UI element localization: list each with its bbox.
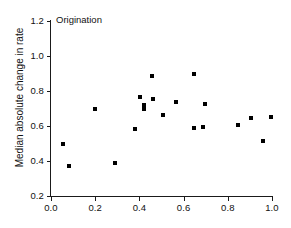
- data-point: [201, 125, 205, 129]
- data-point: [67, 164, 71, 168]
- x-tick-mark: [272, 197, 273, 201]
- data-point: [150, 74, 154, 78]
- data-point: [236, 123, 240, 127]
- data-point: [249, 116, 253, 120]
- x-tick-label: 0.2: [80, 202, 110, 213]
- data-point: [161, 113, 165, 117]
- data-point: [133, 127, 137, 131]
- data-point: [93, 107, 97, 111]
- data-point: [142, 107, 146, 111]
- data-point: [203, 102, 207, 106]
- x-tick-mark: [51, 197, 52, 201]
- data-point: [151, 97, 155, 101]
- data-point: [61, 142, 65, 146]
- data-point: [113, 161, 117, 165]
- x-tick-label: 0.6: [169, 202, 199, 213]
- x-tick-label: 0.4: [124, 202, 154, 213]
- y-tick-label: 0.2: [18, 190, 44, 201]
- x-tick-mark: [95, 197, 96, 201]
- y-tick-label: 0.6: [18, 120, 44, 131]
- data-point: [174, 100, 178, 104]
- data-point: [269, 115, 273, 119]
- data-point: [192, 126, 196, 130]
- data-point: [192, 72, 196, 76]
- x-tick-mark: [139, 197, 140, 201]
- scatter-chart-figure: Origination Median absolute change in ra…: [0, 0, 291, 228]
- x-tick-label: 1.0: [257, 202, 287, 213]
- x-tick-label: 0.0: [36, 202, 66, 213]
- x-axis-line: [50, 196, 273, 197]
- x-tick-label: 0.8: [213, 202, 243, 213]
- y-tick-label: 0.4: [18, 155, 44, 166]
- data-point: [138, 95, 142, 99]
- y-tick-label: 0.8: [18, 85, 44, 96]
- y-tick-label: 1.2: [18, 15, 44, 26]
- y-tick-label: 1.0: [18, 50, 44, 61]
- data-point: [261, 139, 265, 143]
- plot-area: [51, 21, 272, 196]
- x-tick-mark: [184, 197, 185, 201]
- x-tick-mark: [228, 197, 229, 201]
